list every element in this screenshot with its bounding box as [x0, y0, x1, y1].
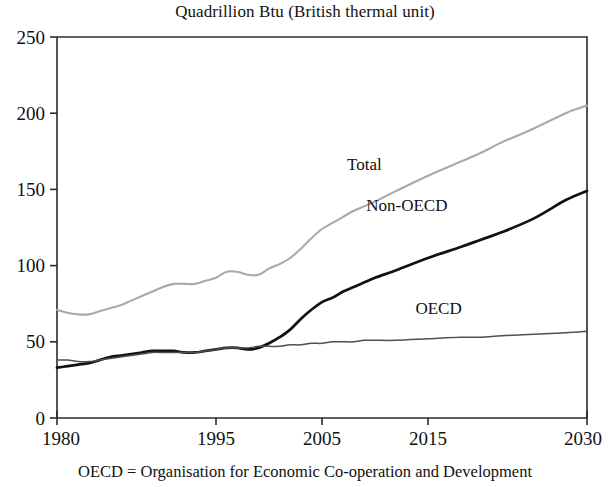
chart-figure: Quadrillion Btu (British thermal unit) 0…	[0, 0, 610, 487]
y-axis-tick-label: 0	[36, 408, 46, 429]
x-axis-tick-label: 2005	[303, 428, 341, 449]
y-axis-tick-label: 200	[17, 103, 46, 124]
y-axis-ticks	[50, 37, 57, 418]
x-axis-tick-labels: 19801995200520152030	[42, 428, 602, 449]
series-line-total	[57, 106, 587, 315]
axis-spines	[57, 37, 587, 418]
series-line-non-oecd	[57, 191, 587, 368]
x-axis-tick-label: 2030	[564, 428, 602, 449]
y-axis-tick-label: 250	[17, 27, 46, 48]
chart-axes	[57, 37, 587, 418]
y-axis-tick-label: 100	[17, 255, 46, 276]
series-label-oecd: OECD	[415, 299, 461, 318]
axis-frame-top-right	[57, 37, 587, 418]
y-axis-tick-label: 150	[17, 179, 46, 200]
series-line-oecd	[57, 331, 587, 362]
series-label-non-oecd: Non-OECD	[366, 196, 447, 215]
chart-plot-area: 050100150200250 19801995200520152030 Tot…	[0, 0, 610, 487]
x-axis-tick-label: 1980	[42, 428, 80, 449]
x-axis-tick-label: 2015	[409, 428, 447, 449]
chart-footnote: OECD = Organisation for Economic Co-oper…	[0, 462, 610, 482]
y-axis-tick-label: 50	[26, 331, 45, 352]
chart-series-lines	[57, 106, 587, 368]
series-label-total: Total	[347, 155, 382, 174]
chart-series-labels: TotalNon-OECDOECD	[347, 155, 462, 319]
y-axis-tick-labels: 050100150200250	[17, 27, 46, 429]
x-axis-tick-label: 1995	[197, 428, 235, 449]
